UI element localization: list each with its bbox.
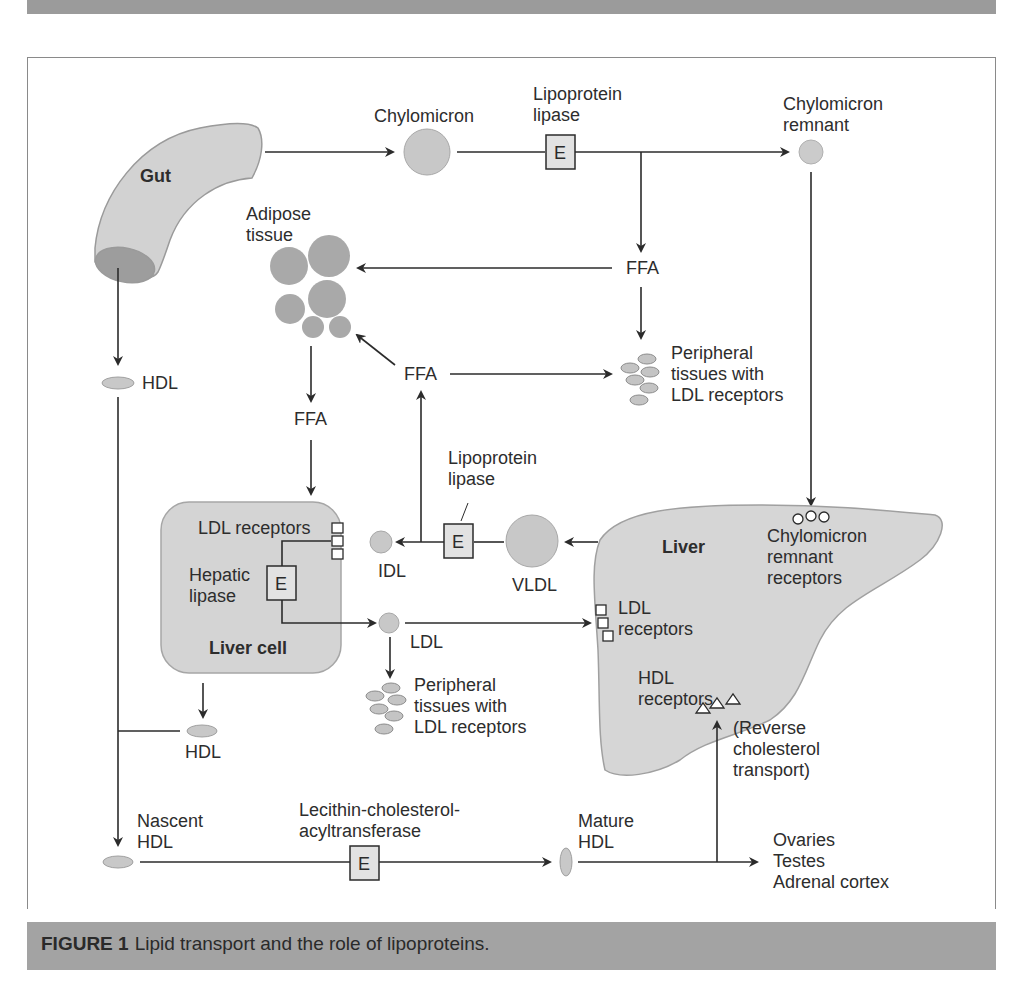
gut-label: Gut <box>140 166 171 187</box>
hepatic-lipase-label: Hepaticlipase <box>189 565 250 607</box>
liver-cell-ldl-receptors-label: LDL receptors <box>198 518 310 539</box>
mature-hdl-particle <box>560 848 572 876</box>
lcat-label: Lecithin-cholesterol-acyltransferase <box>299 800 460 842</box>
hdl-liver-cell-label: HDL <box>185 742 221 763</box>
ffa-left-label: FFA <box>294 409 327 430</box>
adipose-tissue-label: Adiposetissue <box>246 204 311 246</box>
chylomicron-remnant-label: Chylomicronremnant <box>783 94 883 136</box>
idl-particle <box>370 531 392 553</box>
ldl-label: LDL <box>410 632 443 653</box>
figure-caption: FIGURE 1Lipid transport and the role of … <box>41 933 490 955</box>
mature-hdl-label: MatureHDL <box>578 811 634 853</box>
liver-cell-ldl-receptors-icon <box>332 523 343 559</box>
svg-text:E: E <box>554 143 566 163</box>
svg-text:E: E <box>452 532 464 552</box>
hdl-left-label: HDL <box>142 373 178 394</box>
hdl-receptors-label: HDLreceptors <box>638 668 713 710</box>
ffa-top-label: FFA <box>626 258 659 279</box>
target-tissues-label: OvariesTestesAdrenal cortex <box>773 830 889 893</box>
chylomicron-remnant-particle <box>799 140 823 164</box>
svg-text:E: E <box>275 574 287 594</box>
hdl-particle-left <box>102 377 134 389</box>
liver-ldl-receptors-label: LDLreceptors <box>618 598 693 640</box>
idl-label: IDL <box>378 561 406 582</box>
lpl-mid-label: Lipoproteinlipase <box>448 448 537 490</box>
gut-icon <box>92 124 262 288</box>
peripheral-tissues-bottom-label: Peripheraltissues withLDL receptors <box>414 675 526 738</box>
reverse-transport-label: (Reversecholesteroltransport) <box>733 718 820 781</box>
hdl-particle-liver-cell <box>187 725 217 737</box>
chylomicron-remnant-receptors-label: Chylomicronremnantreceptors <box>767 526 867 589</box>
nascent-hdl-label: NascentHDL <box>137 811 203 853</box>
liver-title: Liver <box>662 537 705 558</box>
figure-caption-text: Lipid transport and the role of lipoprot… <box>135 933 490 954</box>
chylomicron-label: Chylomicron <box>374 106 474 127</box>
peripheral-tissues-top-label: Peripheraltissues withLDL receptors <box>671 343 783 406</box>
peripheral-cells-icon-top <box>621 354 659 405</box>
ldl-particle <box>379 613 399 633</box>
liver-cell-title: Liver cell <box>209 638 287 659</box>
nascent-hdl-particle <box>103 856 133 868</box>
lpl-top-label: Lipoproteinlipase <box>533 84 622 126</box>
peripheral-cells-icon-bottom <box>366 683 406 734</box>
svg-text:E: E <box>358 854 370 874</box>
figure-number: FIGURE 1 <box>41 933 129 954</box>
chylomicron-particle <box>404 129 450 175</box>
adipose-cells-icon <box>270 235 351 338</box>
vldl-particle <box>506 515 558 567</box>
vldl-label: VLDL <box>512 575 557 596</box>
ffa-mid-label: FFA <box>404 364 437 385</box>
